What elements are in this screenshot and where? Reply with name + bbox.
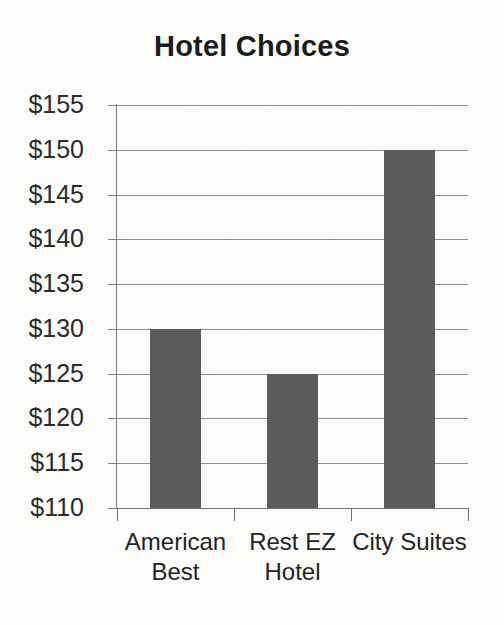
y-axis-tick — [108, 195, 117, 196]
y-axis-tick — [108, 374, 117, 375]
y-axis-label: $155 — [0, 92, 84, 117]
y-axis-tick — [108, 150, 117, 151]
y-axis-label: $135 — [0, 271, 84, 296]
x-axis-label-line: Hotel — [234, 557, 351, 587]
x-axis-label: City Suites — [351, 527, 468, 557]
bar-city-suites — [384, 150, 435, 508]
y-axis-tick — [108, 508, 117, 509]
x-axis-label-line: Best — [117, 557, 234, 587]
bar-rest-ez-hotel — [267, 374, 318, 508]
x-axis-label-line: City Suites — [351, 527, 468, 557]
y-axis-label: $125 — [0, 361, 84, 386]
y-axis-label: $145 — [0, 182, 84, 207]
y-axis-label: $110 — [0, 495, 84, 520]
category-separator-tick — [234, 508, 235, 521]
y-axis-tick — [108, 329, 117, 330]
y-axis-tick — [108, 105, 117, 106]
x-axis-label: Rest EZHotel — [234, 527, 351, 587]
plot-area — [117, 105, 468, 508]
bar-american-best — [150, 329, 201, 508]
y-axis-line — [116, 104, 117, 509]
y-axis-label: $130 — [0, 316, 84, 341]
y-axis-tick — [108, 418, 117, 419]
x-axis-label-line: American — [117, 527, 234, 557]
y-axis-tick — [108, 239, 117, 240]
x-axis-label-line: Rest EZ — [234, 527, 351, 557]
chart-figure: Hotel Choices $155$150$145$140$135$130$1… — [0, 0, 504, 625]
category-separator-tick — [468, 508, 469, 521]
gridline — [117, 105, 468, 106]
y-axis-label: $140 — [0, 226, 84, 251]
y-axis-label: $120 — [0, 405, 84, 430]
y-axis-tick — [108, 463, 117, 464]
category-separator-tick — [117, 508, 118, 521]
chart-title: Hotel Choices — [0, 30, 504, 63]
y-axis-tick — [108, 284, 117, 285]
x-axis-label: AmericanBest — [117, 527, 234, 587]
category-separator-tick — [351, 508, 352, 521]
y-axis-label: $115 — [0, 450, 84, 475]
y-axis-label: $150 — [0, 137, 84, 162]
x-axis-line — [117, 508, 468, 509]
